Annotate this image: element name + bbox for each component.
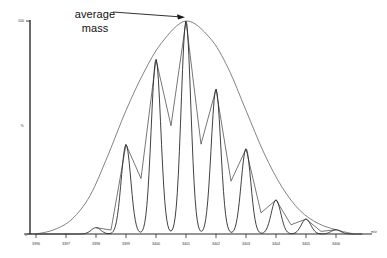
x-tick-label: 3406 <box>332 242 340 246</box>
x-tick-label: 3402 <box>212 242 220 246</box>
annotation-label-line2: mass <box>62 22 128 34</box>
spectrum-plot: 100 0 % 3396 3397 3398 3399 3400 3401 34… <box>0 0 387 258</box>
y-axis-top-label: 100 <box>18 19 24 23</box>
x-tick-label: 3404 <box>272 242 280 246</box>
x-tick-label: 3403 <box>242 242 250 246</box>
x-tick-label: 3400 <box>152 242 160 246</box>
x-tick-label: 3397 <box>62 242 70 246</box>
y-axis-bottom-label: 0 <box>25 233 27 237</box>
x-tick-label: 3399 <box>122 242 130 246</box>
x-tick-label: 3398 <box>92 242 100 246</box>
annotation-label-line1: average <box>62 8 128 20</box>
x-tick-label: 3401 <box>182 242 190 246</box>
mass-spectrum-figure: 100 0 % 3396 3397 3398 3399 3400 3401 34… <box>0 0 387 258</box>
plot-background <box>0 0 387 258</box>
x-tick-label: 3405 <box>302 242 310 246</box>
x-axis-unit-label: m/z <box>371 230 377 234</box>
x-tick-label: 3396 <box>32 242 40 246</box>
